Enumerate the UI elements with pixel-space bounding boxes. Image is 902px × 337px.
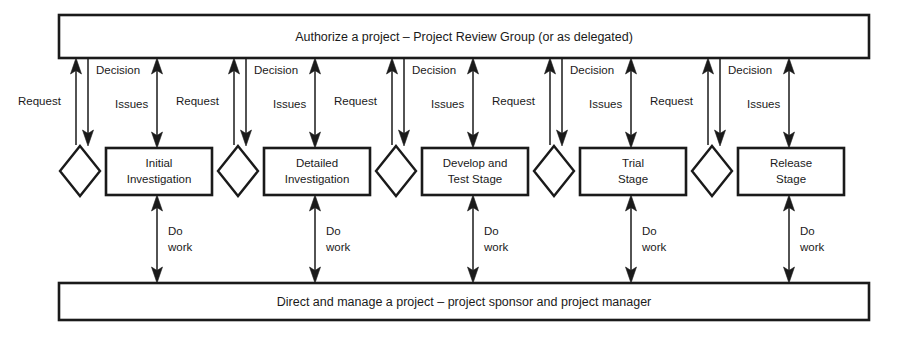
- stage-label-1-line2: Investigation: [127, 173, 192, 185]
- gate-diamond-3: [376, 146, 416, 196]
- gate-diamond-1: [60, 146, 100, 196]
- gate-diamond-4: [534, 146, 574, 196]
- process-flow-diagram: Authorize a project – Project Review Gro…: [0, 0, 902, 337]
- stage-label-2-line1: Detailed: [296, 157, 338, 169]
- gate-diamond-2: [218, 146, 258, 196]
- stage-boxes-group: Initial Investigation Detailed Investiga…: [106, 148, 844, 195]
- do-work-label-4-line1: Do: [642, 225, 657, 237]
- request-label-5: Request: [650, 95, 694, 107]
- stage-label-2-line2: Investigation: [285, 173, 350, 185]
- do-work-label-2-line1: Do: [326, 225, 341, 237]
- request-label-1: Request: [18, 95, 62, 107]
- decision-label-1: Decision: [96, 64, 140, 76]
- request-label-2: Request: [176, 95, 220, 107]
- do-work-label-4-line2: work: [641, 241, 667, 253]
- stage-box-2: [264, 148, 370, 195]
- issues-label-4: Issues: [589, 98, 622, 110]
- stage-label-3-line2: Test Stage: [448, 173, 502, 185]
- stage-label-4-line2: Stage: [618, 173, 648, 185]
- issues-label-1: Issues: [115, 98, 148, 110]
- stage-box-4: [580, 148, 686, 195]
- diagram-canvas: Authorize a project – Project Review Gro…: [0, 0, 902, 337]
- decision-label-3: Decision: [412, 64, 456, 76]
- do-work-label-5-line1: Do: [800, 225, 815, 237]
- top-band-label: Authorize a project – Project Review Gro…: [295, 30, 633, 44]
- stage-label-3-line1: Develop and: [443, 157, 508, 169]
- stage-box-1: [106, 148, 212, 195]
- gate-diamond-5: [692, 146, 732, 196]
- stage-box-3: [422, 148, 528, 195]
- stage-node-3: Develop and Test Stage: [422, 148, 528, 195]
- stage-box-5: [738, 148, 844, 195]
- stage-node-2: Detailed Investigation: [264, 148, 370, 195]
- stage-label-5-line1: Release: [770, 157, 812, 169]
- stage-label-5-line2: Stage: [776, 173, 806, 185]
- do-work-label-5-line2: work: [799, 241, 825, 253]
- do-work-label-1-line1: Do: [168, 225, 183, 237]
- issues-label-5: Issues: [747, 98, 780, 110]
- issues-label-3: Issues: [431, 98, 464, 110]
- stage-node-1: Initial Investigation: [106, 148, 212, 195]
- request-label-4: Request: [492, 95, 536, 107]
- decision-label-5: Decision: [728, 64, 772, 76]
- request-label-3: Request: [334, 95, 378, 107]
- do-work-label-2-line2: work: [325, 241, 351, 253]
- stage-node-4: Trial Stage: [580, 148, 686, 195]
- stage-node-5: Release Stage: [738, 148, 844, 195]
- stage-label-4-line1: Trial: [622, 157, 644, 169]
- stage-label-1-line1: Initial: [146, 157, 173, 169]
- top-band-group: Authorize a project – Project Review Gro…: [59, 15, 869, 58]
- bottom-band-group: Direct and manage a project – project sp…: [59, 283, 869, 320]
- decision-label-2: Decision: [254, 64, 298, 76]
- decision-label-4: Decision: [570, 64, 614, 76]
- issues-label-2: Issues: [273, 98, 306, 110]
- bottom-band-label: Direct and manage a project – project sp…: [277, 295, 652, 309]
- do-work-label-1-line2: work: [167, 241, 193, 253]
- do-work-label-3-line2: work: [483, 241, 509, 253]
- do-work-label-3-line1: Do: [484, 225, 499, 237]
